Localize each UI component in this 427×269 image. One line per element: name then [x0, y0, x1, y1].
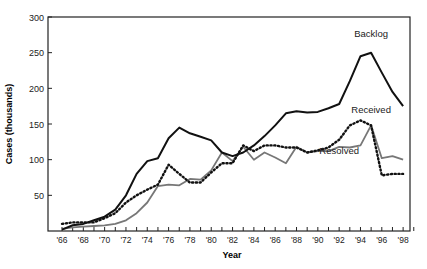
- series-lines: [62, 53, 403, 230]
- x-tick-label: '98: [398, 235, 409, 245]
- series-labels: BacklogReceivedResolved: [319, 28, 391, 156]
- x-tick-label: '92: [334, 235, 345, 245]
- y-tick-label: 50: [34, 191, 44, 201]
- line-chart: 50100150200250300 '66'68'70'72'74'76'78'…: [0, 0, 427, 269]
- x-tick-label: '80: [206, 235, 217, 245]
- plot-frame: [48, 17, 410, 231]
- x-axis-label: Year: [222, 250, 242, 260]
- x-tick-label: '72: [120, 235, 131, 245]
- label-received: Received: [351, 104, 391, 115]
- x-tick-label: '68: [78, 235, 89, 245]
- x-tick-label: '82: [227, 235, 238, 245]
- x-tick-label: '86: [270, 235, 281, 245]
- x-tick-label: '74: [142, 235, 153, 245]
- label-backlog: Backlog: [354, 28, 388, 39]
- x-tick-label: '88: [291, 235, 302, 245]
- series-backlog: [62, 53, 403, 230]
- x-tick-label: '70: [99, 235, 110, 245]
- series-received: [62, 120, 403, 223]
- x-tick-label: '66: [56, 235, 67, 245]
- x-tick-label: '90: [312, 235, 323, 245]
- y-tick-label: 200: [29, 84, 44, 94]
- plot-border: [48, 17, 410, 231]
- x-tick-label: '96: [376, 235, 387, 245]
- x-tick-label: '76: [163, 235, 174, 245]
- y-tick-label: 300: [29, 13, 44, 23]
- y-axis-label: Cases (thousands): [4, 84, 14, 165]
- y-tick-label: 250: [29, 48, 44, 58]
- y-tick-label: 150: [29, 120, 44, 130]
- x-tick-label: '94: [355, 235, 366, 245]
- label-resolved: Resolved: [319, 145, 359, 156]
- y-tick-label: 100: [29, 155, 44, 165]
- x-tick-label: '84: [248, 235, 259, 245]
- x-axis: '66'68'70'72'74'76'78'80'82'84'86'88'90'…: [56, 227, 413, 245]
- x-tick-label: '78: [184, 235, 195, 245]
